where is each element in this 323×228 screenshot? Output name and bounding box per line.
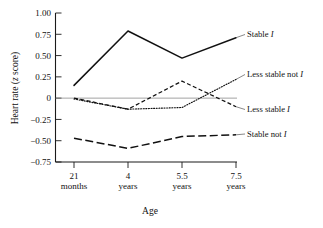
- x-tick-label-5.5-value: 5.5: [176, 171, 188, 181]
- series-label-less-stable-i-text: Less stable: [247, 104, 287, 114]
- y-tick-label-0: 0: [47, 93, 52, 103]
- chart-figure: 1.00 0.75 0.50 0.25 0 −0.25 −0.50 −0.75 …: [0, 0, 323, 228]
- x-tick-label-7.5-unit: years: [227, 181, 246, 191]
- y-tick-label--0.25: −0.25: [30, 115, 51, 125]
- series-label-stable-i-text: Stable: [247, 29, 271, 39]
- y-tick-label--0.50: −0.50: [30, 136, 51, 146]
- y-tick-label-0.75: 0.75: [35, 30, 51, 40]
- x-tick-label-21-unit: months: [61, 181, 88, 191]
- series-label-stable-i: Stable I: [247, 29, 275, 39]
- y-tick-label-0.50: 0.50: [35, 51, 51, 61]
- y-tick-label-0.25: 0.25: [35, 72, 51, 82]
- y-axis-title-part-a: Heart rate (: [10, 81, 21, 124]
- x-tick-label-4-unit: years: [119, 181, 138, 191]
- x-axis-title: Age: [142, 206, 158, 216]
- y-axis-title: Heart rate (z score): [10, 52, 21, 125]
- y-tick-label--0.75: −0.75: [30, 157, 51, 167]
- y-tick-label-1.00: 1.00: [35, 8, 51, 18]
- y-axis-title-part-b: score): [10, 52, 21, 78]
- series-label-less-stable-not-i-text: Less stable not: [247, 69, 300, 79]
- x-tick-label-5.5-unit: years: [173, 181, 192, 191]
- x-tick-label-21-value: 21: [70, 171, 79, 181]
- x-tick-label-4-value: 4: [126, 171, 131, 181]
- x-tick-label-7.5-value: 7.5: [230, 171, 242, 181]
- series-label-less-stable-not-i: Less stable not I: [247, 69, 304, 79]
- series-label-stable-not-i-text: Stable not: [247, 129, 284, 139]
- series-label-less-stable-i: Less stable I: [247, 104, 291, 114]
- series-label-stable-not-i: Stable not I: [247, 129, 288, 139]
- heart-rate-line-chart: 1.00 0.75 0.50 0.25 0 −0.25 −0.50 −0.75 …: [0, 0, 323, 228]
